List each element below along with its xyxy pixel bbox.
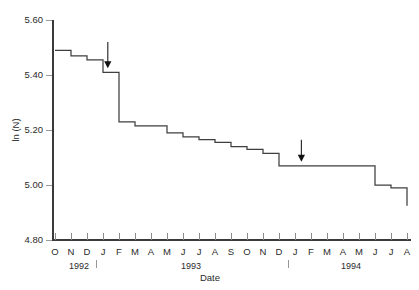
year-labels: 199219931994 bbox=[69, 261, 361, 271]
x-tick-label: A bbox=[404, 246, 411, 257]
x-tick-label: M bbox=[355, 246, 363, 257]
x-tick-label: M bbox=[323, 246, 331, 257]
x-tick-label: N bbox=[260, 246, 267, 257]
x-axis-tick-labels: ONDJFMAMJJASONDJFMAMJJA bbox=[51, 246, 411, 257]
x-tick-label: O bbox=[51, 246, 58, 257]
step-series-line bbox=[55, 50, 407, 206]
chart-figure: 4.805.005.205.405.60 ONDJFMAMJJASONDJFMA… bbox=[0, 0, 419, 290]
x-axis-title: Date bbox=[200, 272, 220, 283]
x-tick-label: J bbox=[373, 246, 378, 257]
y-tick-label: 5.20 bbox=[25, 124, 44, 135]
step-chart: 4.805.005.205.405.60 ONDJFMAMJJASONDJFMA… bbox=[0, 0, 419, 290]
y-tick-label: 5.60 bbox=[25, 14, 44, 25]
y-tick-label: 5.00 bbox=[25, 179, 44, 190]
x-tick-label: A bbox=[340, 246, 347, 257]
x-tick-label: D bbox=[276, 246, 283, 257]
x-tick-label: J bbox=[389, 246, 394, 257]
x-tick-label: J bbox=[101, 246, 106, 257]
x-tick-label: J bbox=[293, 246, 298, 257]
arrow-1-icon bbox=[104, 42, 111, 68]
arrow-2-icon bbox=[298, 140, 305, 162]
y-tick-label: 4.80 bbox=[25, 234, 44, 245]
x-tick-label: J bbox=[197, 246, 202, 257]
x-axis-ticks bbox=[55, 233, 407, 240]
y-axis-title: ln (N) bbox=[10, 118, 21, 141]
x-tick-label: A bbox=[212, 246, 219, 257]
x-tick-label: N bbox=[68, 246, 75, 257]
arrow-annotations bbox=[104, 42, 305, 162]
year-label: 1994 bbox=[341, 261, 361, 271]
y-axis-ticks bbox=[46, 20, 53, 240]
y-tick-label: 5.40 bbox=[25, 69, 44, 80]
x-tick-label: M bbox=[163, 246, 171, 257]
arrow-head bbox=[298, 155, 305, 162]
arrow-head bbox=[104, 61, 111, 68]
x-tick-label: D bbox=[84, 246, 91, 257]
x-tick-label: F bbox=[308, 246, 314, 257]
y-axis-tick-labels: 4.805.005.205.405.60 bbox=[25, 14, 44, 245]
axis-lines bbox=[53, 20, 411, 240]
x-tick-label: M bbox=[131, 246, 139, 257]
x-tick-label: J bbox=[181, 246, 186, 257]
x-tick-label: O bbox=[243, 246, 250, 257]
x-tick-label: F bbox=[116, 246, 122, 257]
x-tick-label: S bbox=[228, 246, 234, 257]
x-tick-label: A bbox=[148, 246, 155, 257]
year-label: 1992 bbox=[69, 261, 89, 271]
year-label: 1993 bbox=[181, 261, 201, 271]
